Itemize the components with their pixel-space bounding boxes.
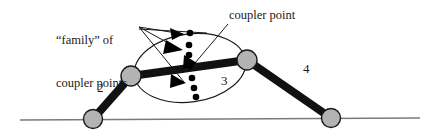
coupler-point-dot xyxy=(186,42,193,49)
rocker-link-4 xyxy=(247,60,331,118)
coupler-point-dot xyxy=(193,94,200,101)
leader-coupler-point xyxy=(195,24,228,63)
ground-pivot-right xyxy=(322,109,341,128)
coupler-point-dot xyxy=(189,75,196,82)
family-annotation-line2: coupler points xyxy=(56,76,127,90)
coupler-point-annotation: coupler point xyxy=(229,8,295,22)
arrowhead-1 xyxy=(170,28,184,40)
coupler-rocker-joint xyxy=(237,50,257,70)
family-annotation-line1: “family” of xyxy=(56,33,127,47)
coupler-point-dot xyxy=(191,85,198,92)
family-annotation: “family” of coupler points xyxy=(56,4,127,119)
coupler-point-dot xyxy=(187,30,194,37)
link-label-4: 4 xyxy=(303,62,310,77)
figure-canvas: “family” of coupler points coupler point… xyxy=(0,0,433,139)
link-label-3: 3 xyxy=(221,74,228,89)
link-label-2: 2 xyxy=(97,81,104,96)
arrowhead-2 xyxy=(163,40,183,54)
